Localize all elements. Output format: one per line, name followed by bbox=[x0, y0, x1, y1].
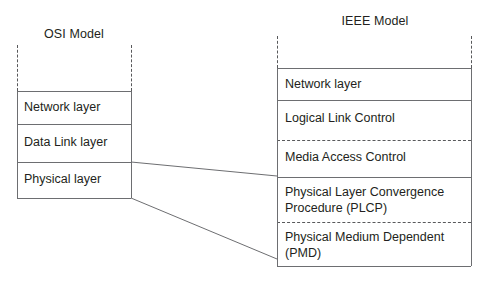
osi-divider-network-datalink bbox=[17, 124, 131, 125]
ieee-dashed-right-edge bbox=[471, 36, 472, 68]
ieee-layer-plcp-label: Physical Layer Convergence Procedure (PL… bbox=[285, 185, 444, 216]
ieee-divider-mac-plcp bbox=[277, 177, 471, 178]
ieee-box-left-border bbox=[277, 68, 278, 266]
osi-box-right-border bbox=[131, 91, 132, 198]
osi-layer-physical-label: Physical layer bbox=[24, 172, 101, 188]
connector-physical-to-pmd bbox=[131, 198, 277, 259]
ieee-layer-network-label: Network layer bbox=[285, 77, 361, 93]
osi-layer-network-label: Network layer bbox=[24, 100, 100, 116]
ieee-layer-pmd-label: Physical Medium Dependent (PMD) bbox=[285, 230, 444, 261]
osi-divider-datalink-physical bbox=[17, 162, 131, 163]
ieee-box-right-border bbox=[471, 68, 472, 266]
connector-physical-to-plcp bbox=[131, 162, 277, 176]
ieee-divider-plcp-pmd bbox=[277, 222, 471, 223]
ieee-row-top-border bbox=[277, 68, 471, 69]
diagram-canvas: OSI Model Network layer Data Link layer … bbox=[0, 0, 488, 282]
osi-model-title: OSI Model bbox=[17, 27, 131, 41]
osi-layer-datalink-label: Data Link layer bbox=[24, 135, 107, 151]
ieee-model-title: IEEE Model bbox=[305, 14, 445, 28]
ieee-dashed-left-edge bbox=[277, 36, 278, 68]
ieee-layer-llc-label: Logical Link Control bbox=[285, 111, 395, 127]
ieee-divider-llc-mac bbox=[277, 140, 471, 141]
osi-box-left-border bbox=[17, 91, 18, 198]
ieee-box-bottom-border bbox=[277, 266, 471, 267]
ieee-layer-mac-label: Media Access Control bbox=[285, 150, 406, 166]
osi-dashed-right-edge bbox=[131, 45, 132, 91]
osi-row-top-border bbox=[17, 91, 131, 92]
ieee-divider-network-llc bbox=[277, 100, 471, 101]
osi-box-bottom-border bbox=[17, 198, 131, 199]
osi-dashed-left-edge bbox=[17, 45, 18, 91]
